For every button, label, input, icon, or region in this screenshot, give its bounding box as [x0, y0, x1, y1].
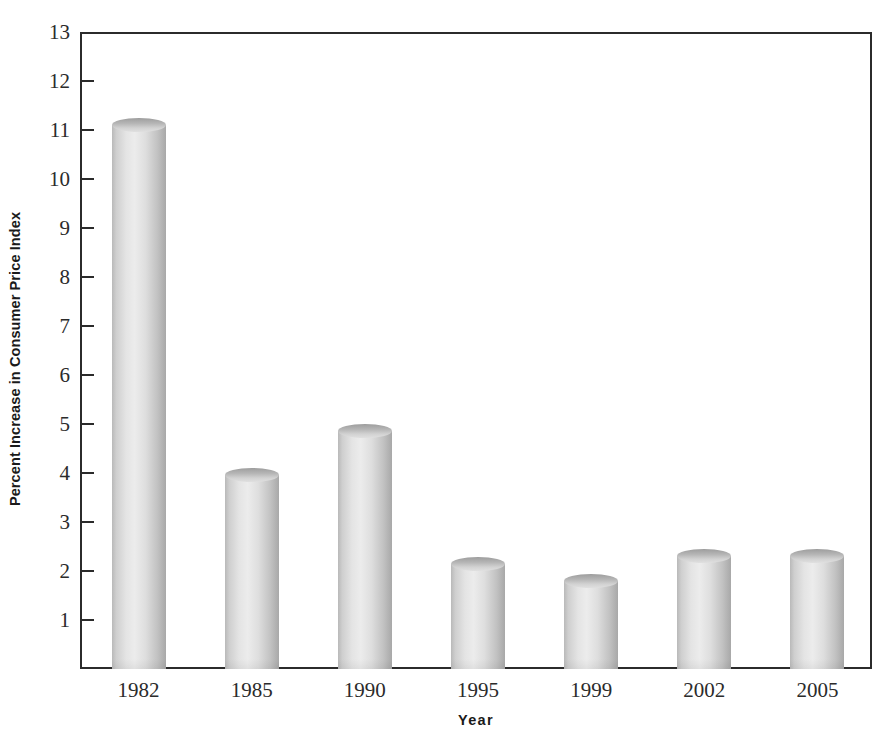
y-tick-label: 7	[26, 313, 70, 339]
y-tick-mark	[81, 129, 94, 131]
y-tick-mark	[81, 178, 94, 180]
y-tick-mark	[81, 472, 94, 474]
y-axis-title: Percent Increase in Consumer Price Index	[2, 9, 28, 709]
y-tick-mark	[81, 521, 94, 523]
bar-chart: Percent Increase in Consumer Price Index…	[0, 0, 881, 753]
y-tick-label: 6	[26, 362, 70, 388]
y-tick-label: 1	[26, 607, 70, 633]
bar-top-ellipse	[112, 118, 166, 132]
bar-body	[677, 556, 731, 669]
x-tick-label: 1985	[192, 678, 312, 703]
y-tick-label: 8	[26, 264, 70, 290]
x-tick-label: 2005	[757, 678, 877, 703]
bar-top-ellipse	[564, 574, 618, 588]
y-tick-mark	[81, 80, 94, 82]
bar-base-shading	[225, 659, 279, 669]
y-tick-mark	[81, 227, 94, 229]
bar-body	[225, 475, 279, 669]
bar-2005	[790, 549, 844, 669]
bar-top-ellipse	[451, 557, 505, 571]
bar-1995	[451, 557, 505, 669]
bar-body	[451, 564, 505, 669]
y-tick-mark	[81, 325, 94, 327]
y-tick-label: 5	[26, 411, 70, 437]
y-tick-label: 12	[26, 68, 70, 94]
y-tick-label: 11	[26, 117, 70, 143]
x-tick-label: 1995	[418, 678, 538, 703]
bar-base-shading	[790, 659, 844, 669]
y-tick-label: 2	[26, 558, 70, 584]
bar-base-shading	[338, 659, 392, 669]
bar-base-shading	[451, 659, 505, 669]
x-tick-label: 1999	[531, 678, 651, 703]
y-tick-label: 4	[26, 460, 70, 486]
x-tick-label: 1990	[305, 678, 425, 703]
bar-body	[112, 125, 166, 669]
y-tick-mark	[81, 619, 94, 621]
bar-base-shading	[112, 659, 166, 669]
bar-base-shading	[677, 659, 731, 669]
x-tick-label: 2002	[644, 678, 764, 703]
y-tick-mark	[81, 374, 94, 376]
bar-body	[790, 556, 844, 669]
x-axis-title: Year	[80, 712, 872, 728]
bar-base-shading	[564, 659, 618, 669]
y-tick-label: 9	[26, 215, 70, 241]
y-tick-mark	[81, 276, 94, 278]
bar-body	[564, 581, 618, 669]
y-tick-label: 10	[26, 166, 70, 192]
y-tick-mark	[81, 423, 94, 425]
bar-1985	[225, 468, 279, 669]
x-tick-label: 1982	[79, 678, 199, 703]
bar-1999	[564, 574, 618, 669]
y-tick-mark	[81, 570, 94, 572]
y-tick-label: 13	[26, 19, 70, 45]
bar-body	[338, 431, 392, 669]
bar-2002	[677, 549, 731, 669]
bar-1982	[112, 118, 166, 669]
y-tick-label: 3	[26, 509, 70, 535]
bar-1990	[338, 424, 392, 669]
